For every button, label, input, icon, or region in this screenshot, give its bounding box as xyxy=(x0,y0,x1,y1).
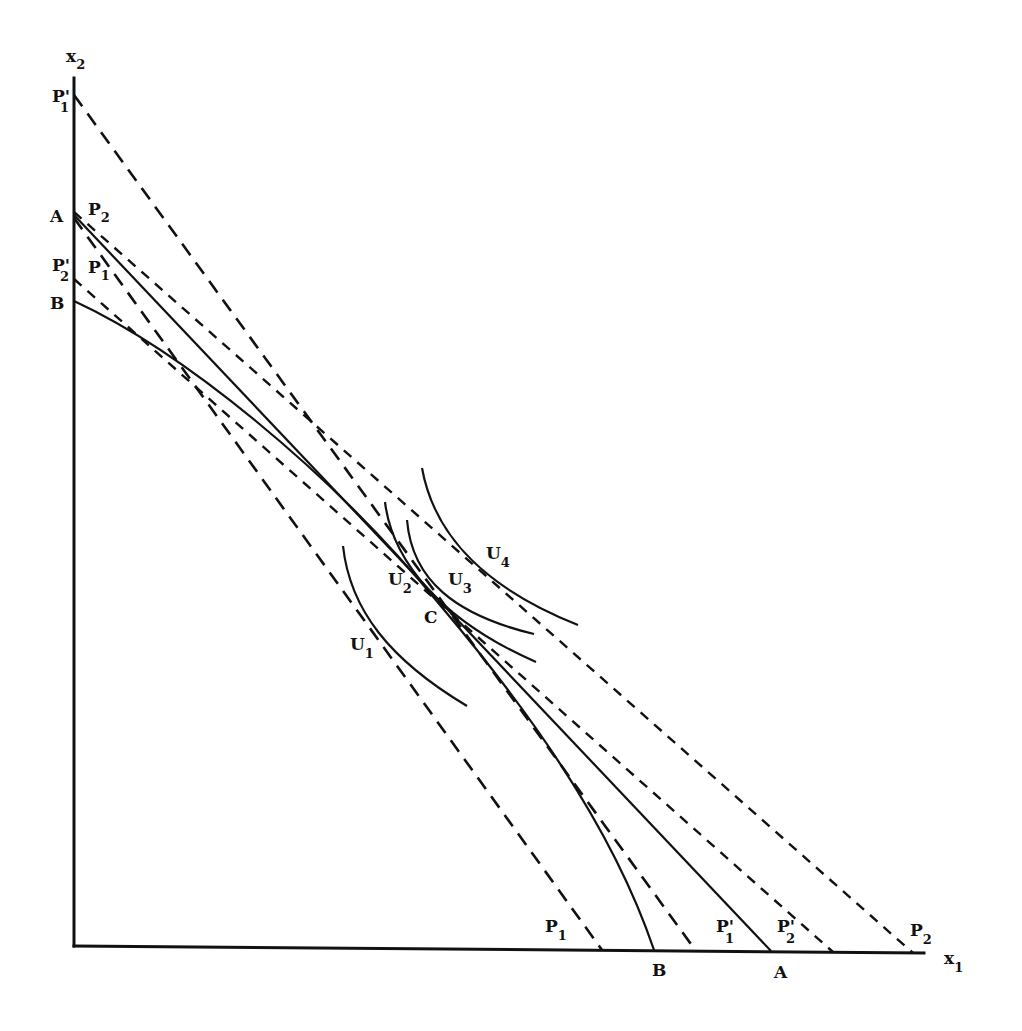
y-label-P2prime: P'2 xyxy=(52,255,70,284)
x-label-P1: P1 xyxy=(545,916,567,943)
y-label-B: B xyxy=(50,293,64,313)
y-label-P2: P2 xyxy=(88,199,110,225)
y-label-P1: P1 xyxy=(88,257,110,283)
x-axis xyxy=(74,946,924,953)
label-U4: U4 xyxy=(486,543,510,570)
x-axis-label: x1 xyxy=(944,948,963,975)
x-label-P2prime: P'2 xyxy=(777,916,795,946)
y-label-P1prime: P'1 xyxy=(52,86,70,115)
y-label-A: A xyxy=(49,206,64,226)
x-label-A: A xyxy=(773,962,788,982)
label-C: C xyxy=(424,607,438,627)
price-line-P1 xyxy=(74,218,602,950)
label-U2: U2 xyxy=(388,569,412,596)
x-label-B: B xyxy=(652,960,666,980)
x-label-P1prime: P'1 xyxy=(716,916,734,946)
price-line-P1prime xyxy=(74,95,696,951)
price-line-P2 xyxy=(74,212,913,953)
label-U1: U1 xyxy=(350,634,374,661)
y-axis-label: x2 xyxy=(66,46,85,72)
x-label-P2: P2 xyxy=(910,920,932,947)
frontier-curve-B xyxy=(74,301,654,950)
production-possibility-diagram: x2 x1 P'1 A P2 P'2 P1 B P1 B P'1 A P'2 P… xyxy=(0,0,1022,1031)
label-U3: U3 xyxy=(448,569,472,596)
price-line-P2prime xyxy=(74,279,833,952)
